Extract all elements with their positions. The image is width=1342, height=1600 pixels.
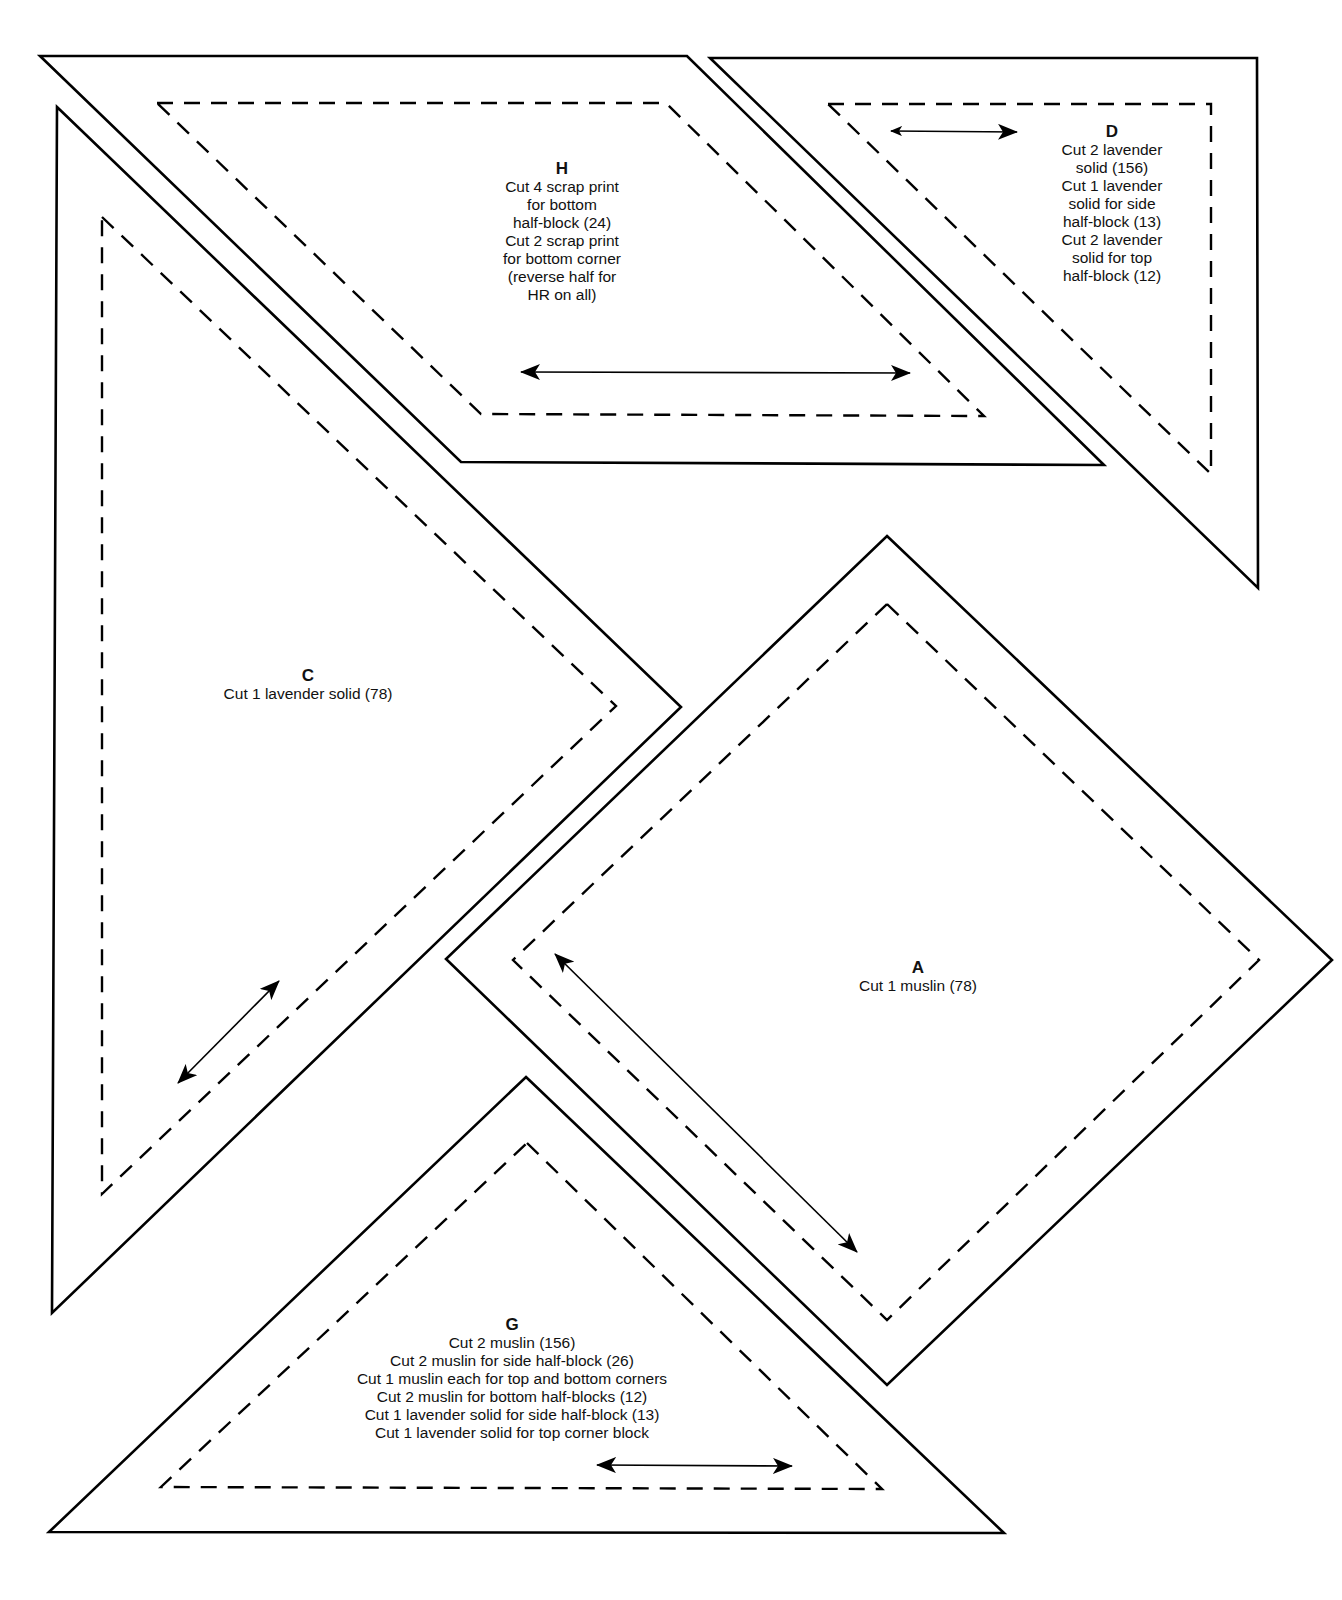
piece-c-label: C Cut 1 lavender solid (78) — [224, 666, 393, 703]
piece-g-label: G Cut 2 muslin (156) Cut 2 muslin for si… — [357, 1315, 667, 1442]
piece-a-label: A Cut 1 muslin (78) — [859, 958, 977, 995]
piece-h-letter: H — [503, 159, 621, 178]
piece-g — [49, 1077, 1004, 1533]
piece-g-letter: G — [357, 1315, 667, 1334]
piece-a-grain-arrow — [555, 954, 857, 1252]
piece-d-instruction: solid for top — [1062, 249, 1163, 267]
piece-d-instruction: Cut 2 lavender — [1062, 141, 1163, 159]
piece-d-instruction: solid (156) — [1062, 159, 1163, 177]
piece-d — [710, 58, 1258, 588]
piece-h-grain-arrow — [521, 372, 910, 373]
piece-g-grain-arrow — [597, 1465, 792, 1466]
piece-g-instruction: Cut 2 muslin for bottom half-blocks (12) — [357, 1388, 667, 1406]
piece-d-cut-line — [710, 58, 1258, 588]
piece-d-grain-arrow — [891, 131, 1017, 132]
piece-h-instruction: for bottom — [503, 196, 621, 214]
piece-d-label: D Cut 2 lavender solid (156) Cut 1 laven… — [1062, 122, 1163, 285]
piece-g-instruction: Cut 1 muslin each for top and bottom cor… — [357, 1370, 667, 1388]
piece-h-instruction: Cut 2 scrap print — [503, 232, 621, 250]
piece-d-letter: D — [1062, 122, 1163, 141]
piece-h-instruction: (reverse half for — [503, 268, 621, 286]
piece-g-instruction: Cut 1 lavender solid for side half-block… — [357, 1406, 667, 1424]
piece-a-letter: A — [859, 958, 977, 977]
piece-g-cut-line — [49, 1077, 1004, 1533]
piece-g-instruction: Cut 2 muslin (156) — [357, 1334, 667, 1352]
piece-g-instruction: Cut 2 muslin for side half-block (26) — [357, 1352, 667, 1370]
piece-h-instruction: HR on all) — [503, 286, 621, 304]
piece-d-instruction: half-block (12) — [1062, 267, 1163, 285]
piece-g-instruction: Cut 1 lavender solid for top corner bloc… — [357, 1424, 667, 1442]
piece-h-label: H Cut 4 scrap print for bottom half-bloc… — [503, 159, 621, 304]
piece-c-instruction: Cut 1 lavender solid (78) — [224, 685, 393, 703]
piece-c-letter: C — [224, 666, 393, 685]
piece-h-instruction: Cut 4 scrap print — [503, 178, 621, 196]
piece-d-instruction: solid for side — [1062, 195, 1163, 213]
piece-d-instruction: Cut 2 lavender — [1062, 231, 1163, 249]
piece-c-grain-arrow — [178, 981, 279, 1083]
piece-a-instruction: Cut 1 muslin (78) — [859, 977, 977, 995]
piece-h-instruction: half-block (24) — [503, 214, 621, 232]
piece-d-instruction: Cut 1 lavender — [1062, 177, 1163, 195]
piece-h-instruction: for bottom corner — [503, 250, 621, 268]
piece-d-instruction: half-block (13) — [1062, 213, 1163, 231]
